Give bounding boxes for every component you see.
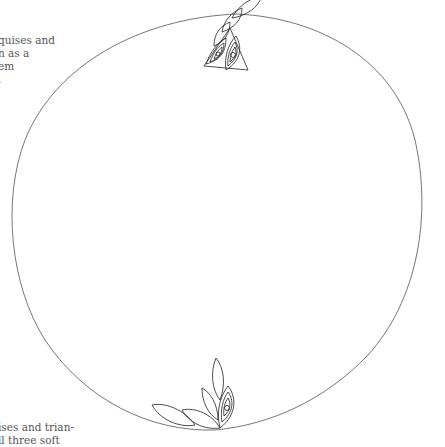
bottom-leaf-motif-icon: [152, 358, 234, 428]
main-circle: [12, 14, 422, 430]
text-line: ises and trian-: [0, 421, 74, 434]
top-leaf-motif-icon: [204, 0, 262, 70]
bottom-paragraph-fragment: ises and trian- ll three soft: [0, 421, 74, 447]
text-line: ll three soft: [0, 434, 74, 447]
